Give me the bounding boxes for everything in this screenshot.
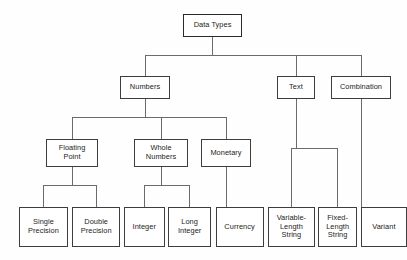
node-whole-numbers: Whole Numbers: [134, 139, 188, 167]
node-text: Text: [277, 76, 315, 99]
node-numbers: Numbers: [120, 76, 170, 99]
node-fixed-length-string: Fixed- Length String: [318, 207, 357, 247]
node-data-types: Data Types: [183, 14, 242, 37]
node-long-integer: Long Integer: [168, 207, 211, 247]
node-variable-length-string: Variable- Length String: [268, 207, 314, 247]
node-integer: Integer: [124, 207, 165, 247]
node-double-precision: Double Precision: [72, 207, 120, 247]
data-types-hierarchy-diagram: Data TypesNumbersTextCombinationFloating…: [0, 0, 407, 260]
node-single-precision: Single Precision: [19, 207, 67, 247]
node-variant: Variant: [361, 207, 407, 247]
node-currency: Currency: [216, 207, 264, 247]
node-floating-point: Floating Point: [46, 139, 98, 167]
node-monetary: Monetary: [201, 139, 251, 167]
node-combination: Combination: [331, 76, 391, 99]
